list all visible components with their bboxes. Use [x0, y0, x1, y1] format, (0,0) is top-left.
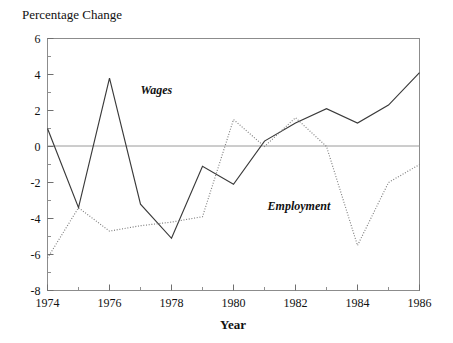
- x-axis-title: Year: [220, 317, 246, 332]
- x-tick-label: 1982: [284, 296, 308, 310]
- y-tick-label: 0: [35, 140, 41, 154]
- y-tick-label: 4: [35, 68, 41, 82]
- x-tick-label: 1976: [98, 296, 122, 310]
- y-axis-title: Percentage Change: [22, 7, 122, 22]
- series-label-wages: Wages: [141, 83, 173, 97]
- x-tick-label: 1980: [222, 296, 246, 310]
- x-tick-label: 1984: [346, 296, 370, 310]
- x-tick-label: 1978: [160, 296, 184, 310]
- x-tick-label: 1986: [408, 296, 432, 310]
- y-tick-label: -4: [31, 212, 41, 226]
- series-label-employment: Employment: [267, 199, 331, 213]
- y-tick-label: -6: [31, 248, 41, 262]
- y-tick-label: 6: [35, 32, 41, 46]
- chart-container: Percentage Change 6420-2-4-6-8 197419761…: [0, 0, 453, 343]
- chart-background: [0, 0, 453, 343]
- y-tick-label: -2: [31, 176, 41, 190]
- percentage-change-line-chart: Percentage Change 6420-2-4-6-8 197419761…: [0, 0, 453, 343]
- x-tick-label: 1974: [36, 296, 60, 310]
- y-tick-label: 2: [35, 104, 41, 118]
